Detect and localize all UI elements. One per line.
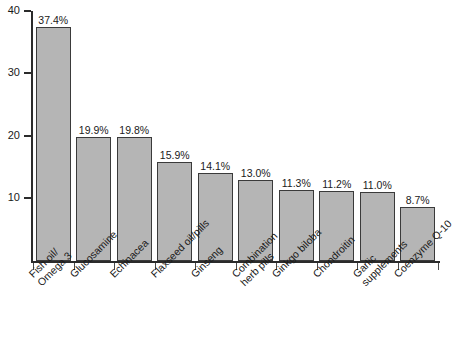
- bar-value-label-7: 11.3%: [282, 178, 311, 189]
- x-tick-end: [438, 263, 439, 270]
- bar-value-label-1: 37.4%: [38, 15, 68, 26]
- bar-value-label-2: 19.9%: [79, 125, 109, 136]
- bar-value-label-4: 15.9%: [160, 150, 190, 161]
- y-tick-label-30: 30: [8, 67, 20, 78]
- bar-value-label-10: 8.7%: [406, 195, 430, 206]
- y-tick-10: 10: [24, 197, 31, 199]
- y-tick-label-40: 40: [8, 5, 20, 16]
- y-tick-30: 30: [24, 72, 31, 74]
- bar-value-label-5: 14.1%: [200, 161, 230, 172]
- y-tick-label-10: 10: [8, 192, 20, 203]
- bar-value-label-9: 11.0%: [363, 180, 392, 191]
- bar-value-label-3: 19.8%: [119, 125, 149, 136]
- bar-value-label-8: 11.2%: [322, 179, 351, 190]
- y-tick-40: 40: [24, 10, 31, 12]
- y-tick-label-20: 20: [8, 130, 20, 141]
- bar-value-label-6: 13.0%: [241, 168, 271, 179]
- y-tick-20: 20: [24, 135, 31, 137]
- bar-1: 37.4%: [36, 27, 71, 261]
- y-axis-line: [31, 11, 33, 262]
